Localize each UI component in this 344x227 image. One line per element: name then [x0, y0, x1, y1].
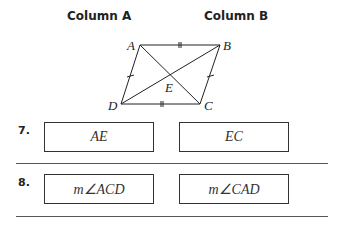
vertex-c-label: C [204, 98, 213, 113]
divider [16, 216, 328, 217]
side-da [121, 45, 140, 104]
vertex-b-label: B [223, 38, 231, 53]
diagonal-bd [121, 45, 220, 104]
question-8-column-b-box: m∠CAD [179, 174, 289, 204]
side-bc [200, 45, 220, 104]
question-7-number: 7. [18, 124, 30, 137]
question-7-column-a-box: AE [44, 122, 154, 152]
question-8-column-a-box: m∠ACD [44, 174, 154, 204]
tick-bc [207, 75, 214, 77]
parallelogram-diagram: A B C D E [0, 0, 344, 120]
question-8-number: 8. [18, 176, 30, 189]
question-7-column-b-box: EC [179, 122, 289, 152]
divider [16, 163, 328, 164]
intersection-e-label: E [164, 80, 173, 95]
vertex-d-label: D [107, 98, 118, 113]
vertex-a-label: A [126, 38, 135, 53]
